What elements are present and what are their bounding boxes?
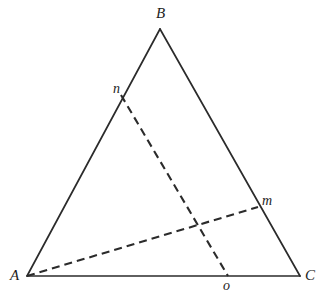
- vertex-label-c: C: [305, 268, 315, 283]
- vertex-label-b: B: [156, 6, 165, 21]
- cevian-a-m: [27, 207, 258, 276]
- edge-ab: [27, 29, 160, 276]
- vertex-label-a: A: [10, 268, 19, 283]
- vertex-label-n: n: [113, 82, 120, 96]
- geometry-figure: B n m A C o: [0, 0, 327, 301]
- edge-bc: [160, 29, 300, 276]
- vertex-label-o: o: [223, 279, 230, 293]
- vertex-label-m: m: [262, 194, 272, 208]
- figure-canvas: [0, 0, 327, 301]
